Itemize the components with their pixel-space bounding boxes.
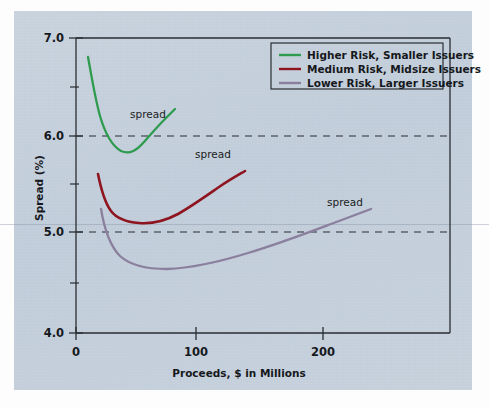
- legend-label-lower-risk: Lower Risk, Larger Issuers: [307, 77, 464, 89]
- series-line-higher-risk: [88, 57, 175, 152]
- legend-label-medium-risk: Medium Risk, Midsize Issuers: [307, 63, 481, 75]
- annotation-spread-higher-risk: spread: [130, 108, 166, 120]
- chart-canvas: 7.0 6.0 5.0 4.0 Spread (%) 0 100 200 Pro…: [0, 0, 489, 408]
- x-tick-label-200: 200: [311, 345, 335, 359]
- legend: Higher Risk, Smaller Issuers Medium Risk…: [271, 43, 481, 89]
- series-line-medium-risk: [98, 171, 245, 223]
- annotation-spread-medium-risk: spread: [195, 148, 231, 160]
- series-line-lower-risk: [101, 209, 371, 269]
- x-axis-title: Proceeds, $ in Millions: [172, 367, 305, 379]
- annotation-spread-lower-risk: spread: [327, 196, 363, 208]
- y-tick-label-5: 5.0: [44, 225, 64, 239]
- y-tick-label-4: 4.0: [44, 326, 64, 340]
- y-tick-label-7: 7.0: [44, 31, 64, 45]
- y-axis-title: Spread (%): [33, 155, 45, 221]
- legend-label-higher-risk: Higher Risk, Smaller Issuers: [307, 49, 474, 61]
- figure-root: 7.0 6.0 5.0 4.0 Spread (%) 0 100 200 Pro…: [0, 0, 489, 408]
- y-tick-label-6: 6.0: [44, 129, 64, 143]
- x-tick-label-100: 100: [184, 345, 208, 359]
- line-chart-svg: 7.0 6.0 5.0 4.0 Spread (%) 0 100 200 Pro…: [0, 0, 489, 408]
- x-tick-label-0: 0: [72, 345, 80, 359]
